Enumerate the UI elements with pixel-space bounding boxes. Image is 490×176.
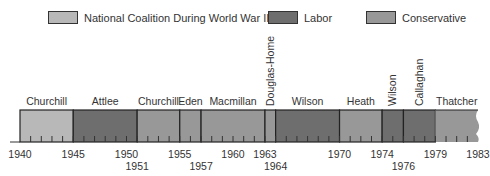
segment-label: Wilson (292, 95, 324, 107)
segment-label: Wilson (386, 74, 398, 106)
year-label: 1970 (328, 148, 352, 160)
year-label: 1976 (392, 160, 416, 172)
year-label: 1945 (62, 148, 86, 160)
year-label: 1955 (168, 148, 192, 160)
year-label: 1974 (370, 148, 394, 160)
segment-label: Heath (347, 95, 375, 107)
segment-label: Churchill (138, 95, 179, 107)
year-label: 1963 (253, 148, 277, 160)
segment-label: Churchill (26, 95, 67, 107)
year-label: 1979 (424, 148, 448, 160)
year-label: 1983 (466, 148, 490, 160)
segment-label: Callaghan (413, 59, 425, 106)
segment-label: Eden (178, 95, 203, 107)
year-label: 1951 (125, 160, 149, 172)
year-label: 1950 (115, 148, 139, 160)
segment-callaghan-1976 (403, 110, 435, 142)
segment-label: Douglas-Home (264, 36, 276, 106)
year-label: 1940 (8, 148, 32, 160)
segment-douglas-home-1963 (265, 110, 276, 142)
segment-label: Attlee (92, 95, 119, 107)
timeline-chart: ChurchillAttleeChurchillEdenMacmillanDou… (0, 0, 490, 176)
segment-label: Macmillan (209, 95, 256, 107)
year-label: 1960 (221, 148, 245, 160)
segment-thatcher-1979 (435, 110, 479, 142)
segment-churchill-1940 (20, 110, 73, 142)
year-label: 1957 (189, 160, 213, 172)
segment-label: Thatcher (436, 95, 478, 107)
year-label: 1964 (264, 160, 288, 172)
